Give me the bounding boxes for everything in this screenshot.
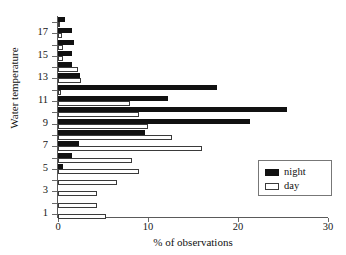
y-axis-tick — [52, 214, 57, 215]
y-axis-tick — [52, 146, 57, 147]
bar-day — [58, 33, 62, 38]
x-axis-tick-label: 20 — [223, 222, 253, 233]
legend-swatch-night-icon — [265, 169, 279, 176]
x-axis-tick-label: 0 — [43, 222, 73, 233]
bar-night — [58, 85, 217, 90]
y-axis-tick-label: 9 — [22, 118, 48, 129]
top-caption-strip — [0, 0, 346, 11]
y-axis-tick — [52, 135, 57, 136]
y-axis-tick-label: 15 — [22, 50, 48, 61]
legend-item-day: day — [265, 180, 299, 192]
y-axis-tick — [52, 101, 57, 102]
x-axis-title: % of observations — [58, 236, 328, 248]
y-axis-tick — [52, 124, 57, 125]
y-axis-tick-label: 7 — [22, 140, 48, 151]
bar-day — [58, 203, 97, 208]
legend-swatch-day-icon — [265, 183, 279, 190]
bar-day — [58, 124, 148, 129]
x-axis-tick-label: 10 — [133, 222, 163, 233]
bar-day — [58, 22, 60, 27]
y-axis-tick-label: 1 — [22, 208, 48, 219]
y-axis-tick — [52, 180, 57, 181]
y-axis-tick — [52, 33, 57, 34]
bar-day — [58, 67, 78, 72]
y-axis-tick — [52, 78, 57, 79]
bar-day — [58, 169, 139, 174]
bar-day — [58, 135, 172, 140]
y-axis-tick — [52, 169, 57, 170]
y-axis-tick — [52, 112, 57, 113]
y-axis-title: Water temperature — [8, 28, 20, 148]
y-axis-tick-label: 3 — [22, 185, 48, 196]
y-axis-tick — [52, 22, 57, 23]
x-axis-tick-label: 30 — [313, 222, 343, 233]
bar-day — [58, 56, 63, 61]
y-axis-tick-label: 17 — [22, 27, 48, 38]
y-axis-tick — [52, 158, 57, 159]
y-axis-tick-label: 13 — [22, 72, 48, 83]
y-axis-tick-label: 5 — [22, 163, 48, 174]
bar-day — [58, 101, 130, 106]
bar-day — [58, 78, 81, 83]
y-axis-tick — [52, 191, 57, 192]
legend-item-night: night — [265, 166, 306, 178]
bar-day — [58, 112, 139, 117]
bar-day — [58, 180, 117, 185]
bar-day — [58, 158, 132, 163]
y-axis-tick — [52, 203, 57, 204]
bar-day — [58, 90, 61, 95]
y-axis-tick-label: 11 — [22, 95, 48, 106]
y-axis-tick — [52, 56, 57, 57]
legend: night day — [258, 160, 332, 196]
legend-label-night: night — [284, 167, 306, 178]
bar-day — [58, 45, 63, 50]
bar-day — [58, 146, 202, 151]
legend-label-day: day — [284, 181, 299, 192]
y-axis-tick — [52, 67, 57, 68]
bar-day — [58, 214, 106, 219]
y-axis-tick — [52, 45, 57, 46]
chart-root: Water temperature % of observations nigh… — [0, 0, 346, 255]
bar-day — [58, 191, 97, 196]
y-axis-tick — [52, 90, 57, 91]
